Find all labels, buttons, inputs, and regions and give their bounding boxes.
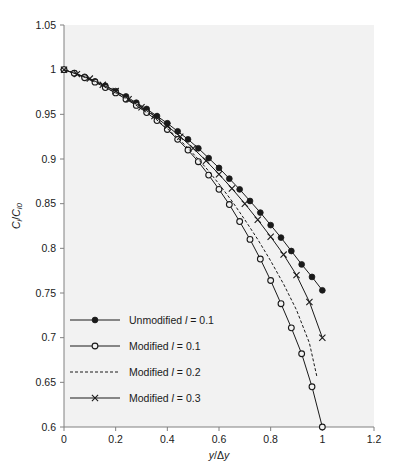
series-marker-0: [309, 274, 315, 280]
legend-marker-0: [92, 317, 98, 323]
series-marker-1: [257, 256, 263, 262]
plot-area-background: [64, 25, 374, 427]
legend-marker-1: [92, 343, 98, 349]
series-marker-0: [226, 176, 232, 182]
series-marker-1: [299, 351, 305, 357]
x-axis-title-y2: y: [223, 449, 230, 461]
x-tick-label: 1: [319, 433, 325, 445]
series-marker-1: [278, 301, 284, 307]
series-marker-0: [195, 145, 201, 151]
series-marker-1: [288, 325, 294, 331]
legend-label-0: Unmodified l = 0.1: [129, 314, 214, 326]
series-marker-1: [216, 186, 222, 192]
x-axis-title-delta: Δ: [217, 449, 224, 461]
series-marker-0: [299, 262, 305, 268]
y-tick-label: 0.7: [41, 331, 56, 343]
concentration-profile-chart: 00.20.40.60.811.2 0.60.650.70.750.80.850…: [0, 0, 393, 475]
y-tick-label: 0.6: [41, 421, 56, 433]
x-tick-label: 1.2: [367, 433, 382, 445]
x-tick-label: 0.2: [108, 433, 123, 445]
series-marker-0: [216, 165, 222, 171]
series-marker-1: [237, 219, 243, 225]
legend-label-2: Modified l = 0.2: [129, 366, 201, 378]
legend-label-3: Modified l = 0.3: [129, 392, 201, 404]
series-marker-0: [257, 210, 263, 216]
series-marker-1: [319, 424, 325, 430]
series-marker-1: [226, 202, 232, 208]
y-tick-label: 0.95: [36, 108, 57, 120]
y-tick-label: 0.65: [36, 376, 57, 388]
series-marker-0: [237, 186, 243, 192]
series-marker-0: [319, 287, 325, 293]
series-marker-0: [268, 222, 274, 228]
y-tick-label: 0.75: [36, 287, 57, 299]
y-axis-title-sub2: i0: [15, 202, 24, 209]
y-tick-label: 1.05: [36, 19, 57, 31]
y-tick-label: 0.8: [41, 242, 56, 254]
x-tick-label: 0: [61, 433, 67, 445]
legend-label-1: Modified l = 0.1: [129, 340, 201, 352]
series-marker-0: [278, 235, 284, 241]
chart-figure: 00.20.40.60.811.2 0.60.650.70.750.80.850…: [0, 0, 393, 475]
x-tick-label: 0.8: [263, 433, 278, 445]
y-tick-label: 0.9: [41, 153, 56, 165]
y-tick-label: 0.85: [36, 197, 57, 209]
series-marker-0: [288, 248, 294, 254]
series-marker-1: [309, 384, 315, 390]
series-marker-1: [268, 278, 274, 284]
x-tick-label: 0.6: [212, 433, 227, 445]
x-tick-label: 0.4: [160, 433, 175, 445]
y-tick-label: 1: [50, 63, 56, 75]
x-axis-title: y/Δy: [208, 449, 230, 461]
series-marker-1: [247, 237, 253, 243]
